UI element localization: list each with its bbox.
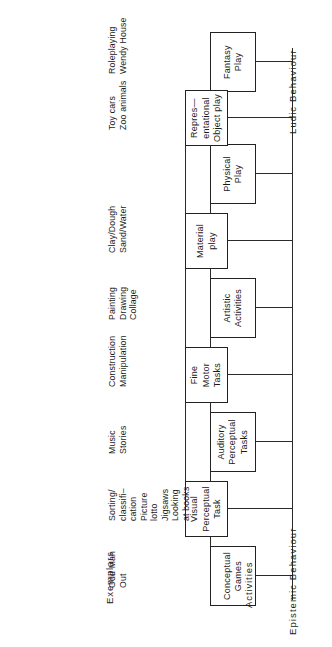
node-fantasy-play[interactable]: Fantasy Play: [210, 32, 256, 92]
node-visual-perceptual-task[interactable]: Visual Perceptual Task: [185, 481, 228, 537]
branch-line-fine-motor-tasks: [270, 374, 293, 375]
diagram-canvas: Conceptual Games Auditory Perceptual Tas…: [0, 0, 332, 647]
node-artistic-activities[interactable]: Artistic Activities: [210, 278, 256, 338]
exemplar-artistic-activities: Painting Drawing Collage: [107, 260, 139, 320]
node-fine-motor-tasks[interactable]: Fine Motor Tasks: [185, 347, 228, 403]
branch-line-physical-play: [270, 173, 293, 174]
exemplar-auditory-perceptual-tasks: Music Stories: [107, 394, 128, 454]
node-material-play[interactable]: Material play: [185, 213, 228, 269]
axis-label-ludic-behaviour: Ludic Behaviour: [287, 49, 298, 134]
row-label-activities: Activities: [243, 562, 254, 608]
branch-line-visual-perceptual-task: [270, 508, 293, 509]
branch-line-material-play: [270, 240, 293, 241]
axis-label-epistemic-behaviour: Epistemic Behaviour: [287, 528, 298, 636]
node-auditory-perceptual-tasks[interactable]: Auditory Perceptual Tasks: [210, 412, 256, 472]
branch-line-artistic-activities: [270, 307, 293, 308]
exemplar-fine-motor-tasks: Construction Manipulation: [107, 309, 128, 387]
exemplar-fantasy-play: Roleplaying Wendy House: [107, 0, 128, 74]
branch-line-auditory-perceptual: [270, 441, 293, 442]
exemplar-visual-perceptual-task: Sorting/ classifi– cation Picture lotto …: [107, 457, 191, 521]
node-representational-object-play[interactable]: Repres— entational Object play: [185, 90, 228, 146]
exemplar-material-play: Clay/Dough Sand/Water: [107, 181, 128, 253]
node-physical-play[interactable]: Physical Play: [210, 144, 256, 204]
exemplar-conceptual-games: Odd Man Out: [107, 528, 128, 588]
